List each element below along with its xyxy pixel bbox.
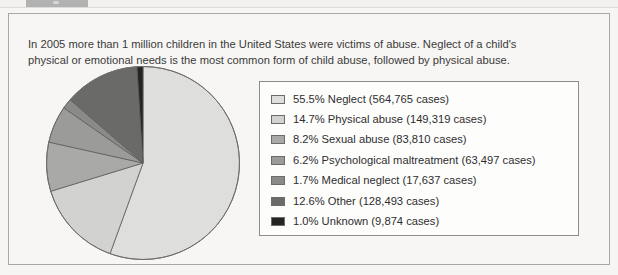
legend-item: 55.5% Neglect (564,765 cases): [260, 89, 578, 109]
legend-swatch-psychological-maltreatment: [271, 156, 285, 165]
chart-legend: 55.5% Neglect (564,765 cases)14.7% Physi…: [259, 81, 579, 236]
intro-line-1: In 2005 more than 1 million children in …: [28, 38, 516, 50]
legend-swatch-other: [271, 197, 285, 206]
pie-chart: [43, 63, 243, 263]
legend-swatch-physical-abuse: [271, 115, 285, 124]
legend-label: 14.7% Physical abuse (149,319 cases): [293, 114, 486, 125]
legend-swatch-unknown: [271, 217, 285, 226]
legend-label: 1.7% Medical neglect (17,637 cases): [293, 175, 476, 186]
legend-item: 1.7% Medical neglect (17,637 cases): [260, 171, 578, 191]
content-panel: In 2005 more than 1 million children in …: [8, 13, 610, 265]
pie-slice-group: [47, 67, 240, 260]
legend-item: 1.0% Unknown (9,874 cases): [260, 211, 578, 231]
legend-item: 6.2% Psychological maltreatment (63,497 …: [260, 150, 578, 170]
pie-chart-svg: [43, 63, 243, 263]
legend-item: 8.2% Sexual abuse (83,810 cases): [260, 130, 578, 150]
legend-swatch-neglect: [271, 95, 285, 104]
legend-label: 1.0% Unknown (9,874 cases): [293, 216, 439, 227]
legend-item: 12.6% Other (128,493 cases): [260, 191, 578, 211]
legend-label: 55.5% Neglect (564,765 cases): [293, 94, 449, 105]
legend-rows: 55.5% Neglect (564,765 cases)14.7% Physi…: [260, 89, 578, 232]
window-top-strip: [0, 0, 618, 8]
legend-item: 14.7% Physical abuse (149,319 cases): [260, 109, 578, 129]
header-divider: [0, 7, 618, 8]
legend-label: 6.2% Psychological maltreatment (63,497 …: [293, 155, 536, 166]
legend-label: 8.2% Sexual abuse (83,810 cases): [293, 134, 467, 145]
legend-swatch-medical-neglect: [271, 176, 285, 185]
header-tab-highlight: [53, 1, 59, 4]
page-root: In 2005 more than 1 million children in …: [0, 0, 618, 275]
legend-swatch-sexual-abuse: [271, 135, 285, 144]
legend-label: 12.6% Other (128,493 cases): [293, 196, 439, 207]
